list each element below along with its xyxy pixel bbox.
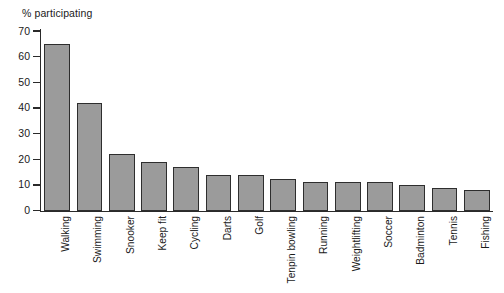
bar xyxy=(109,154,135,210)
x-axis-category-label: Tenpin bowling xyxy=(287,216,297,283)
x-axis-category-label: Fishing xyxy=(481,216,491,249)
bar-chart: % participating 010203040506070 WalkingS… xyxy=(0,0,504,293)
bar xyxy=(270,179,296,211)
bar xyxy=(432,188,458,211)
bar xyxy=(173,167,199,211)
bar xyxy=(206,175,232,211)
bar xyxy=(44,44,70,211)
x-axis-category-label: Walking xyxy=(61,216,71,252)
x-axis-category-label: Weightlifting xyxy=(352,216,362,271)
bar xyxy=(141,162,167,211)
x-axis-category-label: Keep fit xyxy=(158,216,168,251)
x-axis-category-label: Darts xyxy=(223,216,233,240)
bar xyxy=(77,103,103,211)
bar xyxy=(367,182,393,210)
x-axis-category-label: Cycling xyxy=(190,216,200,249)
bar xyxy=(464,190,490,211)
bar xyxy=(335,182,361,210)
bar xyxy=(399,185,425,211)
bar xyxy=(238,175,264,211)
bar xyxy=(303,182,329,210)
x-axis-category-label: Running xyxy=(319,216,329,254)
x-axis-category-label: Soccer xyxy=(384,216,394,248)
x-axis-category-label: Snooker xyxy=(126,216,136,254)
x-axis-category-label: Badminton xyxy=(416,216,426,265)
bar-series xyxy=(0,0,504,293)
x-axis-category-label: Swimming xyxy=(93,216,103,263)
x-axis-category-label: Tennis xyxy=(449,216,459,245)
x-axis-category-label: Golf xyxy=(255,216,265,235)
